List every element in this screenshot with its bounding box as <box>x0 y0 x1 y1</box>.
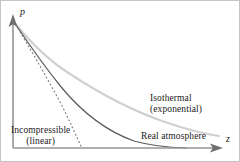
annotation-incompressible-line1: Incompressible <box>11 125 70 135</box>
x-axis-label: z <box>226 133 230 144</box>
annotation-incompressible-line2: (linear) <box>11 136 70 147</box>
annotation-real-atmosphere-line1: Real atmosphere <box>141 131 206 141</box>
annotation-isothermal: Isothermal (exponential) <box>150 93 202 115</box>
pressure-altitude-figure: p z Isothermal (exponential) Real atmosp… <box>0 0 240 162</box>
annotation-real-atmosphere: Real atmosphere <box>141 131 206 142</box>
annotation-isothermal-line2: (exponential) <box>150 104 202 114</box>
annotation-isothermal-line1: Isothermal <box>150 93 192 103</box>
annotation-incompressible: Incompressible (linear) <box>11 125 70 147</box>
y-axis-label: p <box>20 6 25 17</box>
